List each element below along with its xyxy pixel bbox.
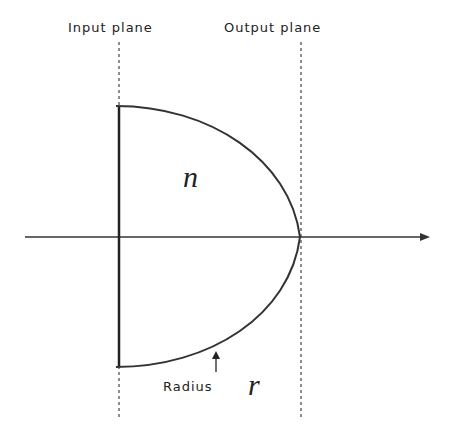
lens-diagram xyxy=(0,0,449,433)
radius-label: Radius xyxy=(163,379,213,394)
input-plane-label: Input plane xyxy=(68,20,153,35)
radius-arrowhead-icon xyxy=(212,351,220,359)
axis-arrowhead-icon xyxy=(420,233,430,241)
output-plane-label: Output plane xyxy=(224,20,321,35)
radius-symbol: r xyxy=(248,368,260,402)
refractive-index-symbol: n xyxy=(183,160,198,194)
